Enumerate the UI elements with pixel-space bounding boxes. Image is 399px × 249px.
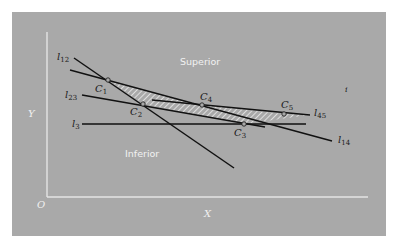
point-c1 — [106, 78, 110, 82]
origin-label: O — [37, 199, 45, 210]
point-c3 — [242, 122, 246, 126]
point-c4 — [200, 103, 204, 107]
x-axis-label: X — [203, 208, 212, 219]
stray-mark: i — [345, 85, 348, 94]
diagram-canvas: Superior Inferior O X Y i l12 l23 l3 l14… — [0, 0, 399, 249]
inferior-label: Inferior — [125, 148, 159, 159]
superior-label: Superior — [180, 56, 220, 67]
point-c2 — [141, 102, 145, 106]
point-c5 — [282, 112, 286, 116]
